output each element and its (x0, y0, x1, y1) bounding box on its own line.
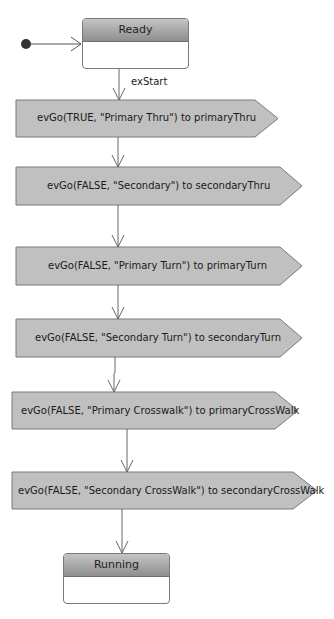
state-running-header: Running (64, 554, 169, 577)
diagram-canvas (0, 0, 334, 619)
action-text-3: evGo(FALSE, "Primary Turn") to primaryTu… (48, 260, 267, 272)
initial-state-dot (21, 39, 31, 49)
connector-action4-to-action5 (114, 357, 115, 392)
action-text-4: evGo(FALSE, "Secondary Turn") to seconda… (35, 332, 281, 344)
state-ready[interactable]: Ready (82, 18, 189, 69)
action-text-2: evGo(FALSE, "Secondary") to secondaryThr… (47, 180, 270, 192)
action-text-5: evGo(FALSE, "Primary Crosswalk") to prim… (21, 405, 299, 417)
transition-label-exstart: exStart (131, 76, 167, 87)
state-running[interactable]: Running (63, 553, 170, 604)
action-text-6: evGo(FALSE, "Secondary CrossWalk") to se… (18, 485, 324, 497)
state-ready-header: Ready (83, 19, 188, 42)
action-text-1: evGo(TRUE, "Primary Thru") to primaryThr… (37, 112, 256, 124)
